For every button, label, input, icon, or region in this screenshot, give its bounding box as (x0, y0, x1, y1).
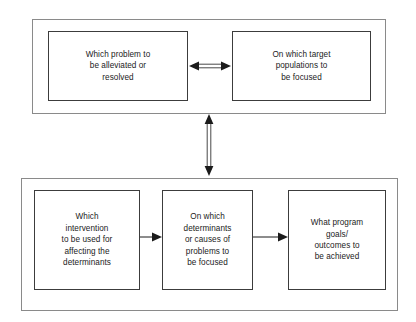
node-intervention-label: Which intervention to be used for affect… (62, 211, 113, 268)
diagram-canvas: Which problem to be alleviated or resolv… (0, 0, 416, 322)
node-program-goals: What program goals/ outcomes to be achie… (288, 190, 386, 290)
node-determinants: On which determinants or causes of probl… (162, 190, 253, 290)
node-program-goals-label: What program goals/ outcomes to be achie… (311, 217, 363, 263)
node-target-populations: On which target populations to be focuse… (232, 31, 371, 101)
node-intervention: Which intervention to be used for affect… (34, 190, 140, 290)
double-headed-arrow-vertical-icon (205, 114, 214, 176)
node-determinants-label: On which determinants or causes of probl… (184, 211, 232, 268)
node-problem-label: Which problem to be alleviated or resolv… (86, 49, 151, 83)
node-target-populations-label: On which target populations to be focuse… (272, 49, 330, 83)
node-problem: Which problem to be alleviated or resolv… (48, 31, 188, 101)
